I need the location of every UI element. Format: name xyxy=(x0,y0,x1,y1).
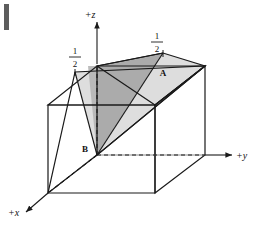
crystal-plane-figure: +z +y +x A B 1 2 1 2 xyxy=(0,0,264,234)
intercept-right-numerator: 1 xyxy=(155,31,160,41)
intercept-left-fraction: 1 2 xyxy=(69,46,81,69)
y-axis-label: +y xyxy=(236,150,248,161)
cube-diagram-svg: +z +y +x A B 1 2 1 2 xyxy=(0,0,264,234)
plane-a-label: A xyxy=(160,68,167,78)
plane-b-label: B xyxy=(82,144,88,154)
intercept-left-numerator: 1 xyxy=(73,46,78,56)
z-axis-label: +z xyxy=(85,9,96,20)
intercept-right-fraction: 1 2 xyxy=(151,31,163,54)
x-axis-label: +x xyxy=(8,207,20,218)
page-edge-marker xyxy=(4,4,9,30)
intercept-left-denominator: 2 xyxy=(73,59,78,69)
intercept-right-denominator: 2 xyxy=(155,44,160,54)
